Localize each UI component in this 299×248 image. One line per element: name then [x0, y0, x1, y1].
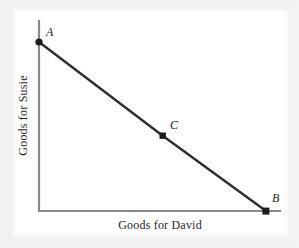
frontier-line	[39, 42, 266, 211]
point-c-label: C	[170, 119, 178, 131]
y-axis-label: Goods for Susie	[16, 46, 31, 186]
point-b-marker	[262, 208, 269, 215]
point-a-label: A	[46, 26, 53, 38]
ppf-figure: A C B Goods for David Goods for Susie	[0, 0, 299, 248]
point-b-label: B	[272, 192, 279, 204]
point-c-marker	[160, 133, 166, 139]
x-axis-label: Goods for David	[39, 218, 281, 233]
plot-canvas	[0, 0, 299, 248]
point-a-marker	[35, 38, 42, 45]
